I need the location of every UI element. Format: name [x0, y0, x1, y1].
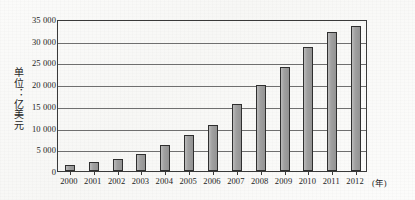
bar-series — [58, 21, 366, 171]
x-axis-tick-label: 2004 — [156, 176, 173, 186]
x-axis-tick-mark — [141, 171, 142, 175]
x-axis-tick-label: 2007 — [227, 176, 244, 186]
x-axis-tick-label: 2001 — [84, 176, 101, 186]
y-axis-tick-label: 35 000 — [32, 15, 56, 25]
x-axis-tick-label: 2011 — [323, 176, 340, 186]
x-axis-tick-mark — [189, 171, 190, 175]
x-axis-tick-mark — [308, 171, 309, 175]
plot-area — [57, 20, 367, 172]
y-axis-tick-label: 30 000 — [32, 37, 56, 47]
x-axis-tick-mark — [356, 171, 357, 175]
y-axis-tick-label: 0 — [52, 167, 56, 177]
y-axis-title-text: 单位：亿美元 — [12, 67, 22, 130]
x-axis-tick-mark — [94, 171, 95, 175]
bar — [303, 47, 313, 171]
bar — [351, 26, 361, 171]
x-axis-tick-label: 2000 — [60, 176, 77, 186]
x-axis-tick-labels: 2000200120022003200420052006200720082009… — [57, 176, 367, 192]
bar — [280, 67, 290, 171]
x-axis-tick-mark — [237, 171, 238, 175]
bar — [327, 32, 337, 171]
x-axis-tick-label: 2012 — [346, 176, 363, 186]
y-axis-tick-labels: 05 00010 00015 00020 00025 00030 00035 0… — [24, 14, 56, 172]
x-axis-tick-mark — [213, 171, 214, 175]
x-axis-tick-label: 2008 — [251, 176, 268, 186]
x-axis-unit-label: (年) — [372, 176, 387, 188]
bar — [256, 85, 266, 171]
y-axis-tick-label: 10 000 — [32, 124, 56, 134]
x-axis-tick-label: 2002 — [108, 176, 125, 186]
bar — [160, 145, 170, 171]
bar — [184, 135, 194, 171]
bar — [113, 159, 123, 171]
x-axis-tick-label: 2009 — [275, 176, 292, 186]
x-axis-tick-mark — [70, 171, 71, 175]
chart-figure: 单位：亿美元 05 00010 00015 00020 00025 00030 … — [0, 0, 415, 200]
x-axis-tick-mark — [118, 171, 119, 175]
x-axis-tick-label: 2006 — [203, 176, 220, 186]
x-axis-tick-mark — [332, 171, 333, 175]
x-axis-tick-mark — [165, 171, 166, 175]
y-axis-tick-label: 20 000 — [32, 80, 56, 90]
y-axis-tick-label: 25 000 — [32, 58, 56, 68]
bar — [208, 125, 218, 171]
x-axis-tick-mark — [285, 171, 286, 175]
bar — [136, 154, 146, 171]
x-axis-tick-label: 2003 — [132, 176, 149, 186]
bar — [232, 104, 242, 171]
y-axis-tick-label: 15 000 — [32, 102, 56, 112]
bar — [89, 162, 99, 171]
x-axis-tick-label: 2010 — [299, 176, 316, 186]
x-axis-tick-mark — [261, 171, 262, 175]
y-axis-tick-label: 5 000 — [36, 145, 56, 155]
x-axis-tick-label: 2005 — [179, 176, 196, 186]
